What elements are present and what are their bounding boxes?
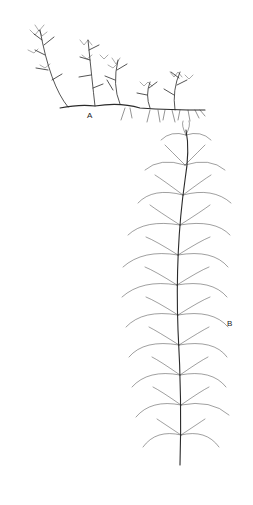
plant-b-whorls: [122, 121, 231, 447]
plant-b-stem: [177, 130, 187, 465]
plant-a-rhizome: [60, 104, 205, 110]
plant-a-foliage: [28, 25, 193, 86]
plant-a-shoots: [34, 30, 187, 110]
label-b: B: [227, 319, 232, 328]
label-a: A: [87, 111, 92, 120]
plant-drawing: [0, 0, 253, 505]
